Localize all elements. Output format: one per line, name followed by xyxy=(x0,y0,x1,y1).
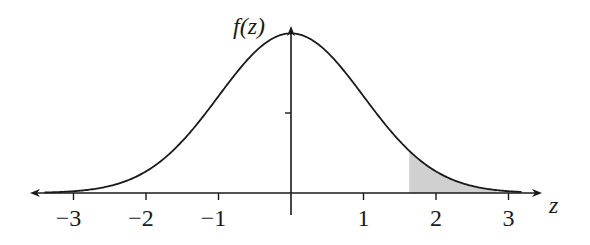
x-tick-label: −2 xyxy=(128,205,154,231)
shaded-tail-region xyxy=(409,151,497,193)
x-tick-label: 2 xyxy=(430,205,442,231)
plot-area: −3−2−1123 f(z) z xyxy=(0,0,590,245)
x-tick-label: 1 xyxy=(358,205,370,231)
x-tick-label: −1 xyxy=(201,205,227,231)
x-tick-label: 3 xyxy=(503,205,515,231)
x-tick-labels: −3−2−1123 xyxy=(56,205,515,231)
y-axis-label: f(z) xyxy=(233,13,265,39)
density-curve xyxy=(45,33,522,192)
normal-curve-chart: −3−2−1123 f(z) z xyxy=(0,0,590,245)
x-axis-label: z xyxy=(548,192,559,218)
x-tick-label: −3 xyxy=(56,205,82,231)
